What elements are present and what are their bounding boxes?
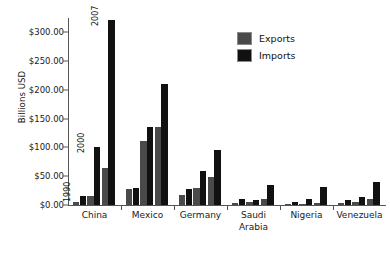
bar-imports [359, 197, 365, 205]
bar-imports [186, 189, 192, 205]
bar-exports [87, 196, 93, 205]
bar-imports [306, 199, 312, 205]
bar-exports [367, 199, 373, 205]
chart-legend: Exports Imports [237, 30, 295, 64]
x-axis-separator [121, 205, 122, 210]
year-annotation: 2000 [77, 133, 86, 153]
bar-exports [102, 168, 108, 205]
bar-imports [373, 182, 379, 205]
bar-exports [338, 203, 344, 205]
y-tick-mark [63, 89, 68, 90]
bar-exports [261, 199, 267, 205]
y-tick-mark [63, 118, 68, 119]
legend-item-imports: Imports [237, 47, 295, 64]
bar-imports [253, 200, 259, 205]
bar-imports [320, 187, 326, 205]
year-annotation: 1990 [63, 182, 72, 202]
bar-group [333, 18, 386, 205]
y-tick-mark [63, 61, 68, 62]
legend-item-exports: Exports [237, 30, 295, 47]
legend-label-imports: Imports [259, 50, 295, 61]
x-axis-separator [333, 205, 334, 210]
bar-imports [94, 147, 100, 205]
y-tick-label: $250.00 [10, 56, 64, 66]
bar-imports [161, 84, 167, 205]
y-tick-label: $300.00 [10, 27, 64, 37]
x-axis-separator [227, 205, 228, 210]
y-tick-label: $200.00 [10, 85, 64, 95]
bar-imports [214, 150, 220, 205]
bar-exports [155, 127, 161, 205]
bar-chart: Billions USD $0.00$50.00$100.00$150.00$2… [0, 0, 390, 253]
legend-swatch-imports [237, 49, 252, 62]
y-tick-label: $50.00 [10, 171, 64, 181]
bar-imports [80, 196, 86, 205]
bar-exports [246, 202, 252, 205]
y-tick-mark [63, 147, 68, 148]
y-tick-label: $100.00 [10, 142, 64, 152]
x-axis-separator [174, 205, 175, 210]
bar-exports [140, 141, 146, 205]
bar-imports [147, 127, 153, 205]
plot-area [68, 18, 386, 205]
bar-imports [108, 20, 114, 205]
legend-swatch-exports [237, 32, 252, 45]
y-tick-label: $150.00 [10, 114, 64, 124]
y-tick-mark [63, 32, 68, 33]
bar-imports [239, 199, 245, 205]
bar-exports [179, 195, 185, 205]
bar-imports [133, 188, 139, 205]
bar-exports [285, 204, 291, 205]
bar-exports [208, 177, 214, 205]
bar-exports [314, 203, 320, 205]
x-axis-separator [280, 205, 281, 210]
bar-group [68, 18, 121, 205]
bar-exports [126, 189, 132, 205]
y-tick-label: $0.00 [10, 200, 64, 210]
y-tick-mark [63, 176, 68, 177]
bar-group [121, 18, 174, 205]
legend-label-exports: Exports [259, 33, 295, 44]
bar-imports [200, 171, 206, 205]
bar-exports [352, 202, 358, 205]
year-annotation: 2007 [91, 5, 100, 25]
bar-imports [345, 200, 351, 205]
bar-imports [267, 185, 273, 205]
bar-group [174, 18, 227, 205]
bar-exports [193, 188, 199, 205]
x-axis-label: Venezuela [320, 210, 390, 222]
y-tick-mark [63, 205, 68, 206]
bar-exports [232, 203, 238, 205]
bar-imports [292, 202, 298, 205]
bar-exports [73, 202, 79, 205]
bar-exports [299, 204, 305, 205]
